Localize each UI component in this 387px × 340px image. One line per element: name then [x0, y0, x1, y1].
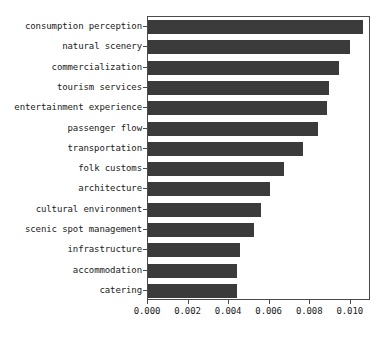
y-axis-tick-label: tourism services — [57, 82, 142, 92]
y-axis-tick-mark — [143, 168, 147, 169]
bar — [148, 81, 329, 95]
bar — [148, 284, 237, 298]
x-axis-tick-mark — [269, 300, 270, 304]
bar — [148, 122, 318, 136]
y-axis-tick-label: transportation — [68, 143, 142, 153]
y-axis-tick-label: passenger flow — [68, 123, 142, 133]
y-axis-tick-mark — [143, 229, 147, 230]
bar — [148, 264, 237, 278]
bar — [148, 203, 261, 217]
bar-row — [148, 223, 370, 237]
y-axis-tick-label: architecture — [78, 183, 142, 193]
y-axis-tick-mark — [143, 128, 147, 129]
bar-row — [148, 284, 370, 298]
y-axis-tick-label: entertainment experience — [14, 102, 142, 112]
bar-row — [148, 142, 370, 156]
y-axis-tick-mark — [143, 249, 147, 250]
bar — [148, 142, 303, 156]
x-axis-tick-mark — [147, 300, 148, 304]
bar — [148, 20, 363, 34]
y-axis-tick-mark — [143, 148, 147, 149]
y-axis-tick-mark — [143, 26, 147, 27]
y-axis-tick-mark — [143, 209, 147, 210]
plot-area — [147, 16, 370, 300]
bar-row — [148, 20, 370, 34]
y-axis-tick-label: cultural environment — [36, 204, 142, 214]
bar-row — [148, 81, 370, 95]
y-axis-tick-mark — [143, 188, 147, 189]
y-axis-tick-mark — [143, 46, 147, 47]
bar-row — [148, 61, 370, 75]
y-axis-tick-label: commercialization — [52, 62, 142, 72]
bar — [148, 162, 284, 176]
x-axis-tick-label: 0.006 — [255, 306, 282, 317]
bar — [148, 223, 254, 237]
x-axis-tick-mark — [228, 300, 229, 304]
bar-row — [148, 182, 370, 196]
bar-row — [148, 101, 370, 115]
bar-row — [148, 264, 370, 278]
bar — [148, 182, 270, 196]
x-axis-tick-label: 0.000 — [134, 306, 161, 317]
bar — [148, 101, 327, 115]
y-axis-tick-mark — [143, 67, 147, 68]
bar — [148, 243, 240, 257]
y-axis-tick-label: natural scenery — [62, 41, 142, 51]
y-axis-tick-label: scenic spot management — [25, 224, 142, 234]
bar-row — [148, 122, 370, 136]
bar-row — [148, 40, 370, 54]
y-axis-tick-label: catering — [99, 285, 142, 295]
x-axis-tick-mark — [309, 300, 310, 304]
y-axis-tick-mark — [143, 290, 147, 291]
bar-row — [148, 162, 370, 176]
y-axis-tick-mark — [143, 270, 147, 271]
y-axis-tick-label: folk customs — [78, 163, 142, 173]
x-axis-tick-mark — [188, 300, 189, 304]
y-axis-label-group: consumption perceptionnatural scenerycom… — [0, 16, 142, 300]
bar-row — [148, 243, 370, 257]
x-axis-tick-label: 0.002 — [174, 306, 201, 317]
bar — [148, 40, 350, 54]
y-axis-tick-mark — [143, 107, 147, 108]
y-axis-tick-label: infrastructure — [68, 244, 142, 254]
x-axis-tick-label: 0.004 — [215, 306, 242, 317]
x-axis-tick-mark — [350, 300, 351, 304]
bar-row — [148, 203, 370, 217]
x-axis-tick-label: 0.008 — [296, 306, 323, 317]
y-axis-tick-label: consumption perception — [25, 21, 142, 31]
y-axis-tick-label: accommodation — [73, 265, 142, 275]
bar-chart-figure: consumption perceptionnatural scenerycom… — [0, 0, 387, 340]
y-axis-tick-mark — [143, 87, 147, 88]
x-axis-tick-label: 0.010 — [336, 306, 363, 317]
bar — [148, 61, 339, 75]
